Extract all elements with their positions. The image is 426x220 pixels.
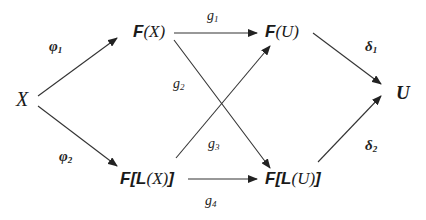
paren-close: ) xyxy=(293,22,299,41)
label-index: 3 xyxy=(215,142,220,152)
func-l: L xyxy=(136,169,146,188)
func-f: F xyxy=(133,22,143,41)
label-index: 1 xyxy=(58,45,63,55)
node-flu: F[L(U)] xyxy=(265,169,321,189)
label-g4: g4 xyxy=(205,193,217,209)
bracket-close: ] xyxy=(168,169,174,188)
label-index: 1 xyxy=(214,14,219,24)
label-symbol: φ xyxy=(59,148,68,164)
func-f: F xyxy=(265,22,275,41)
label-g1: g1 xyxy=(207,8,219,24)
arg-x: X xyxy=(152,169,162,188)
func-f: F xyxy=(120,169,130,188)
label-symbol: g xyxy=(205,193,212,208)
label-phi2: φ2 xyxy=(59,148,72,165)
node-x-label: X xyxy=(16,88,28,110)
arrows-layer xyxy=(0,0,426,220)
node-x: X xyxy=(16,88,28,111)
func-f: F xyxy=(265,169,275,188)
label-phi1: φ1 xyxy=(49,38,62,55)
label-index: 4 xyxy=(212,199,217,209)
arg-u: U xyxy=(297,169,309,188)
node-u: U xyxy=(396,82,410,104)
node-fx: F(X) xyxy=(133,22,165,42)
label-symbol: g xyxy=(173,76,180,91)
label-symbol: δ xyxy=(365,137,373,153)
label-index: 2 xyxy=(373,144,378,154)
arg-x: X xyxy=(149,22,159,41)
arrow-phi2 xyxy=(38,106,117,166)
commutative-diagram: X F(X) F(U) U F[L(X)] F[L(U)] φ1 φ2 g1 g… xyxy=(0,0,426,220)
arg-u: U xyxy=(281,22,293,41)
node-u-label: U xyxy=(396,82,410,103)
label-symbol: g xyxy=(208,136,215,151)
label-g3: g3 xyxy=(208,136,220,152)
label-symbol: g xyxy=(207,8,214,23)
label-index: 2 xyxy=(68,155,73,165)
label-delta2: δ2 xyxy=(365,137,377,154)
node-flx: F[L(X)] xyxy=(120,169,174,189)
label-symbol: δ xyxy=(365,38,373,54)
arrow-g3 xyxy=(176,46,270,158)
label-delta1: δ1 xyxy=(365,38,377,55)
bracket-close: ] xyxy=(315,169,321,188)
label-index: 2 xyxy=(180,82,185,92)
node-fu: F(U) xyxy=(265,22,299,42)
paren-close: ) xyxy=(159,22,165,41)
label-symbol: φ xyxy=(49,38,58,54)
label-index: 1 xyxy=(373,45,378,55)
func-l: L xyxy=(281,169,291,188)
label-g2: g2 xyxy=(173,76,185,92)
